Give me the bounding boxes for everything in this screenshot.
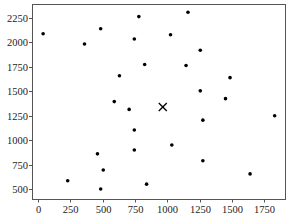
data-point [112,100,116,104]
data-point [248,172,252,176]
y-tick-label: 1750 [7,62,28,73]
data-point [66,179,70,183]
y-tick-label: 1250 [7,111,28,122]
x-axis: 02505007501000125015001750 [36,200,275,216]
data-point [273,114,277,118]
data-point [224,97,228,101]
x-tick-label: 500 [96,204,112,215]
x-tick-label: 1500 [222,204,243,215]
data-point [201,118,205,122]
x-tick-label: 1750 [254,204,275,215]
x-tick-label: 750 [128,204,144,215]
data-point [198,89,202,93]
data-point [133,148,137,152]
x-tick-label: 250 [63,204,79,215]
data-point [184,64,188,68]
data-point [169,33,173,37]
data-point [137,15,141,19]
data-point [201,159,205,163]
data-point [170,143,174,147]
data-point [228,76,232,80]
plot-frame [33,5,286,200]
data-point [133,128,137,132]
y-tick-label: 1500 [7,86,28,97]
data-point [133,37,137,41]
y-tick-label: 500 [12,184,28,195]
y-tick-label: 2250 [7,13,28,24]
y-tick-label: 750 [12,160,28,171]
data-point [99,27,103,31]
data-point [145,182,149,186]
data-point [99,187,103,191]
data-point [143,63,147,67]
data-point [41,32,45,36]
y-tick-label: 2000 [7,37,28,48]
scatter-chart: 02505007501000125015001750 5007501000125… [0,0,289,220]
data-point [118,74,122,78]
data-point [127,108,131,112]
data-point [83,42,87,46]
y-tick-label: 1000 [7,135,28,146]
x-tick-label: 1000 [157,204,178,215]
x-tick-label: 1250 [190,204,211,215]
data-point [101,168,105,172]
y-axis: 500750100012501500175020002250 [7,13,33,195]
x-tick-label: 0 [36,204,41,215]
data-point [186,10,190,14]
data-point [198,49,202,53]
data-point [96,152,100,156]
